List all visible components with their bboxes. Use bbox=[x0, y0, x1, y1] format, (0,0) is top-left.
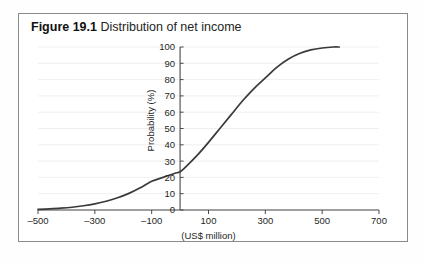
x-tick-label: 100 bbox=[201, 215, 217, 226]
y-tick-label: 100 bbox=[159, 41, 175, 52]
y-tick-label: 60 bbox=[165, 107, 176, 118]
y-tick-label: 90 bbox=[165, 58, 176, 69]
y-tick-label: 0 bbox=[170, 204, 175, 215]
axis-ticks-group bbox=[38, 47, 379, 214]
axis-labels-group: –500–300–1001003005007000102030405060708… bbox=[27, 41, 387, 241]
y-tick-label: 20 bbox=[165, 172, 176, 183]
x-tick-label: 500 bbox=[314, 215, 330, 226]
figure-root: Figure 19.1 Distribution of net income –… bbox=[0, 0, 424, 264]
distribution-chart: –500–300–1001003005007000102030405060708… bbox=[19, 14, 409, 243]
y-tick-label: 40 bbox=[165, 139, 176, 150]
x-tick-label: –300 bbox=[84, 215, 105, 226]
y-tick-label: 10 bbox=[165, 188, 176, 199]
x-tick-label: –500 bbox=[27, 215, 48, 226]
x-tick-label: 300 bbox=[257, 215, 273, 226]
gridlines-group bbox=[38, 47, 379, 210]
x-axis-title: (US$ million) bbox=[181, 230, 235, 241]
y-axis-title: Probability (%) bbox=[145, 90, 156, 152]
y-tick-label: 70 bbox=[165, 90, 176, 101]
x-tick-label: –100 bbox=[141, 215, 162, 226]
y-tick-label: 80 bbox=[165, 74, 176, 85]
x-tick-label: 700 bbox=[371, 215, 387, 226]
y-tick-label: 30 bbox=[165, 156, 176, 167]
y-tick-label: 50 bbox=[165, 123, 176, 134]
figure-border-box: Figure 19.1 Distribution of net income –… bbox=[18, 13, 408, 242]
